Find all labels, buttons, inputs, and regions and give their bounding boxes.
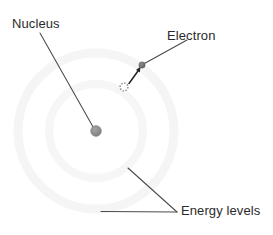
electron-transition-arrow-icon [129, 67, 141, 84]
leader-line-energy-level-lower [101, 212, 177, 213]
nucleus-dot [91, 126, 102, 137]
leader-line-energy-level-upper [128, 168, 177, 212]
label-energy-levels: Energy levels [181, 204, 260, 218]
electron-dot [139, 62, 145, 68]
label-nucleus: Nucleus [12, 17, 60, 31]
atom-diagram: Nucleus Electron Energy levels [0, 0, 273, 235]
label-electron: Electron [167, 29, 216, 43]
atom-diagram-canvas [0, 0, 273, 235]
electron-ground-state-ghost-icon [120, 83, 128, 91]
leader-line-electron [144, 40, 188, 64]
